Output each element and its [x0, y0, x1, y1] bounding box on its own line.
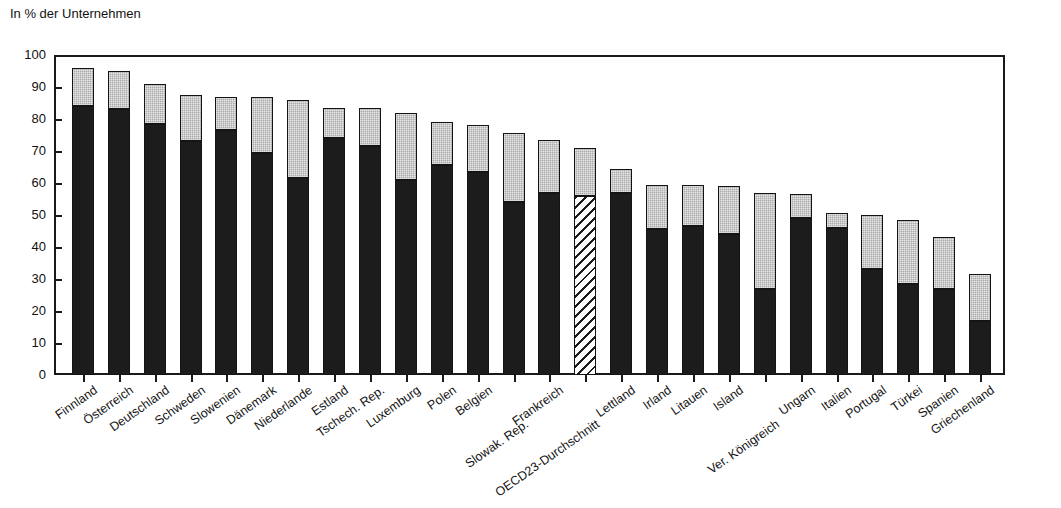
bar-segment-upper	[144, 84, 166, 124]
bar-group	[610, 55, 632, 375]
bar-segment-upper	[180, 95, 202, 141]
x-axis-labels: FinnlandÖsterreichDeutschlandSchwedenSlo…	[54, 383, 1061, 508]
x-tick	[191, 375, 193, 382]
bar-group	[861, 55, 883, 375]
bar-segment-lower	[682, 226, 704, 375]
y-tick-label-60: 60	[0, 176, 46, 189]
x-tick	[585, 375, 587, 382]
x-tick	[872, 375, 874, 382]
y-tick-label-30: 30	[0, 272, 46, 285]
chart-root: In % der Unternehmen 0102030405060708090…	[0, 0, 1061, 508]
x-tick	[729, 375, 731, 382]
y-tick-60	[54, 183, 62, 185]
x-tick	[514, 375, 516, 382]
bar-segment-lower	[215, 130, 237, 375]
bar-segment-lower	[646, 229, 668, 375]
x-axis-label: Litauen	[668, 383, 710, 418]
bar-segment-upper	[215, 97, 237, 131]
bar-segment-upper	[287, 100, 309, 178]
x-tick	[765, 375, 767, 382]
x-tick	[262, 375, 264, 382]
x-tick	[549, 375, 551, 382]
x-tick	[693, 375, 695, 382]
x-tick	[478, 375, 480, 382]
bar-segment-upper	[323, 108, 345, 138]
y-tick-label-70: 70	[0, 144, 46, 157]
x-axis-ticks	[54, 375, 1005, 383]
x-tick	[621, 375, 623, 382]
bars-layer	[54, 55, 1005, 375]
y-tick-70	[54, 151, 62, 153]
bar-segment-lower	[933, 289, 955, 375]
bar-segment-upper	[467, 125, 489, 171]
bar-segment-upper	[359, 108, 381, 146]
bar-group	[467, 55, 489, 375]
y-tick-80	[54, 119, 62, 121]
y-tick-10	[54, 343, 62, 345]
x-axis-label: Ungarn	[776, 383, 818, 418]
y-tick-30	[54, 279, 62, 281]
y-tick-label-0: 0	[0, 368, 46, 381]
bar-segment-lower	[897, 284, 919, 375]
x-axis-label: Frankreich	[510, 383, 566, 428]
bar-group	[108, 55, 130, 375]
bar-group	[72, 55, 94, 375]
bar-segment-lower	[323, 138, 345, 375]
bar-segment-upper	[969, 274, 991, 320]
x-tick	[801, 375, 803, 382]
x-tick	[406, 375, 408, 382]
bar-segment-lower	[718, 234, 740, 375]
x-axis-label: Ver. Königreich	[705, 417, 782, 477]
bar-segment-lower	[108, 109, 130, 375]
bar-segment-lower	[538, 193, 560, 375]
bar-segment-upper	[395, 113, 417, 180]
bar-group	[538, 55, 560, 375]
bar-segment-upper	[72, 68, 94, 106]
bar-group	[718, 55, 740, 375]
bar-segment-upper	[610, 169, 632, 193]
x-tick	[334, 375, 336, 382]
y-tick-label-50: 50	[0, 208, 46, 221]
x-axis-label: Belgien	[453, 383, 495, 418]
bar-segment-upper	[790, 194, 812, 218]
y-tick-label-20: 20	[0, 304, 46, 317]
x-tick	[657, 375, 659, 382]
bar-segment-lower	[144, 124, 166, 375]
x-tick	[442, 375, 444, 382]
bar-segment-upper	[682, 185, 704, 227]
x-tick	[908, 375, 910, 382]
bar-segment-lower	[574, 196, 596, 375]
bar-segment-lower	[72, 106, 94, 375]
x-tick	[226, 375, 228, 382]
y-axis-labels: 0102030405060708090100	[0, 55, 46, 375]
bar-group	[215, 55, 237, 375]
bar-segment-lower	[395, 180, 417, 375]
x-tick	[119, 375, 121, 382]
bar-segment-upper	[646, 185, 668, 230]
bar-segment-upper	[431, 122, 453, 165]
bar-segment-upper	[933, 237, 955, 288]
y-tick-40	[54, 247, 62, 249]
bar-group	[144, 55, 166, 375]
y-tick-label-100: 100	[0, 48, 46, 61]
bar-group	[754, 55, 776, 375]
y-axis-title: In % der Unternehmen	[10, 6, 141, 21]
y-tick-label-80: 80	[0, 112, 46, 125]
bar-group	[503, 55, 525, 375]
bar-group	[359, 55, 381, 375]
bar-group	[897, 55, 919, 375]
bar-segment-upper	[718, 186, 740, 234]
bar-segment-upper	[754, 193, 776, 289]
bar-segment-lower	[287, 178, 309, 375]
bar-segment-upper	[826, 213, 848, 227]
bar-segment-upper	[251, 97, 273, 153]
bar-segment-upper	[574, 148, 596, 196]
bar-group	[323, 55, 345, 375]
x-axis-label: Island	[711, 383, 746, 414]
bar-segment-lower	[359, 146, 381, 375]
y-tick-90	[54, 87, 62, 89]
bar-segment-lower	[503, 202, 525, 375]
bar-segment-lower	[790, 218, 812, 375]
bar-group	[969, 55, 991, 375]
bar-group	[431, 55, 453, 375]
